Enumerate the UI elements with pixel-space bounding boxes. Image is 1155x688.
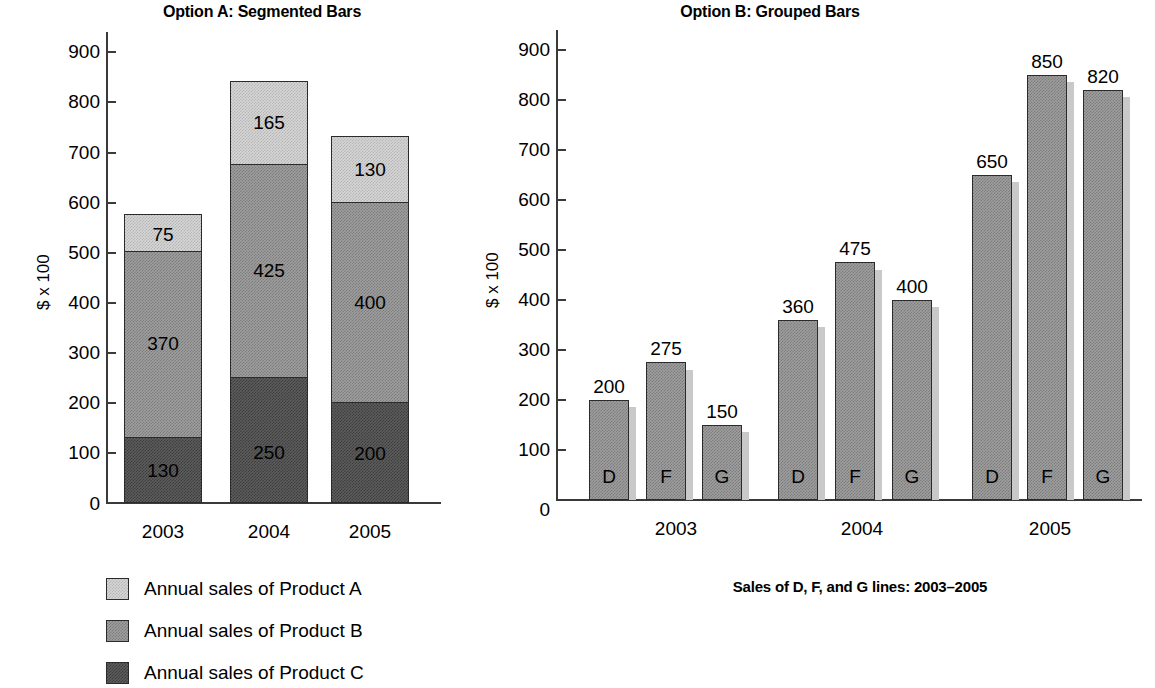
- panel-b-ytick-label-400: 400: [494, 290, 550, 309]
- panel-b-bar-2003-f-shadow: [685, 370, 693, 500]
- panel-b-ytick-label-500: 500: [494, 240, 550, 259]
- panel-b-ytick-label-700: 700: [494, 140, 550, 159]
- panel-b-bar-2005-g-letter: G: [1083, 467, 1123, 486]
- panel-b-ytick-label-900: 900: [494, 40, 550, 59]
- panel-b-bar-2003-g-value: 150: [692, 402, 752, 421]
- panel-b-tick-600: [557, 199, 566, 201]
- panel-b-bar-2005-g-value: 820: [1073, 67, 1133, 86]
- panel-b-bar-2004-g-value: 400: [882, 277, 942, 296]
- panel-b-bar-2003-g-letter: G: [702, 467, 742, 486]
- panel-b-bar-2003-g-shadow: [741, 432, 749, 500]
- panel-b-tick-300: [557, 349, 566, 351]
- panel-b-bar-2003-d-shadow: [628, 407, 636, 500]
- panel-b-bar-2004-d-shadow: [817, 327, 825, 500]
- panel-b-category-label-2003: 2003: [626, 519, 726, 538]
- panel-b-ytick-label-300: 300: [494, 340, 550, 359]
- panel-b-bar-2005-d[interactable]: [972, 175, 1012, 500]
- panel-b-bar-2005-d-value: 650: [962, 152, 1022, 171]
- panel-b-bar-2003-g[interactable]: [702, 425, 742, 500]
- panel-b-bar-2004-f-value: 475: [825, 239, 885, 258]
- panel-b-bar-2003-d-letter: D: [589, 467, 629, 486]
- panel-b-bar-2005-d-shadow: [1011, 182, 1019, 500]
- figure-root: Option A: Segmented Bars $ x 100 900 800…: [0, 0, 1155, 688]
- panel-b-caption: Sales of D, F, and G lines: 2003–2005: [660, 578, 1060, 595]
- panel-b-category-label-2005: 2005: [1000, 519, 1100, 538]
- panel-b-bar-2003-d-value: 200: [579, 377, 639, 396]
- panel-b-bar-2003-f-letter: F: [646, 467, 686, 486]
- panel-b-bar-2004-g-letter: G: [892, 467, 932, 486]
- panel-b-tick-400: [557, 299, 566, 301]
- panel-b-tick-700: [557, 149, 566, 151]
- panel-b-ytick-label-100: 100: [494, 440, 550, 459]
- panel-b-bar-2005-f-shadow: [1066, 82, 1074, 500]
- panel-b-ytick-label-0: 0: [494, 500, 550, 519]
- panel-b-bar-2005-g-shadow: [1122, 97, 1130, 500]
- panel-b-ytick-label-200: 200: [494, 390, 550, 409]
- panel-b-bar-2004-d-value: 360: [768, 297, 828, 316]
- panel-b-bar-2004-f[interactable]: [835, 262, 875, 500]
- panel-b-tick-200: [557, 399, 566, 401]
- panel-b-tick-900: [557, 49, 566, 51]
- panel-b-ytick-label-800: 800: [494, 90, 550, 109]
- panel-b-bar-2005-d-letter: D: [972, 467, 1012, 486]
- panel-b-bar-2003-f-value: 275: [636, 339, 696, 358]
- panel-b-bar-2004-f-shadow: [874, 270, 882, 500]
- panel-b-bar-2004-d-letter: D: [778, 467, 818, 486]
- panel-b-tick-100: [557, 449, 566, 451]
- panel-b-bar-2004-g-shadow: [931, 307, 939, 500]
- panel-b-tick-800: [557, 99, 566, 101]
- panel-option-b: Option B: Grouped Bars Sales of D, F, an…: [0, 0, 1155, 688]
- panel-b-tick-500: [557, 249, 566, 251]
- panel-b-category-label-2004: 2004: [812, 519, 912, 538]
- panel-b-bar-2004-f-letter: F: [835, 467, 875, 486]
- panel-b-bar-2005-g[interactable]: [1083, 90, 1123, 500]
- panel-b-bar-2005-f-letter: F: [1027, 467, 1067, 486]
- panel-b-bar-2005-f-value: 850: [1017, 52, 1077, 71]
- panel-b-title: Option B: Grouped Bars: [620, 3, 920, 21]
- panel-b-bar-2005-f[interactable]: [1027, 75, 1067, 500]
- panel-b-ytick-label-600: 600: [494, 190, 550, 209]
